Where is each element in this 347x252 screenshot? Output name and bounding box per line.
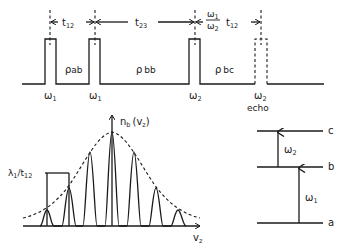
omega1-transition-label: ω1 xyxy=(305,192,318,205)
rho-bb-label: ρbb xyxy=(136,64,156,75)
t23-label: t23 xyxy=(135,17,147,30)
svg-text:ω2: ω2 xyxy=(207,21,219,33)
period-label: λ1/t12 xyxy=(8,168,32,180)
pulse-3-label: ω2 xyxy=(189,90,202,103)
level-b-label: b xyxy=(328,161,334,172)
rho-ab-label: ρab xyxy=(65,64,83,75)
level-c-label: c xyxy=(328,125,334,136)
pulse-2-label: ω1 xyxy=(89,90,102,103)
t12-label: t12 xyxy=(62,17,74,30)
echo-label: echo xyxy=(247,103,269,113)
echo-pulse-outline xyxy=(255,39,267,84)
fringe-pattern xyxy=(40,132,186,226)
y-axis-label: nb(vz) xyxy=(120,116,150,129)
velocity-distribution-plot: λ1/t12 nb(vz) vz xyxy=(8,115,203,245)
pulse-train-line xyxy=(22,39,324,84)
pulse-sequence: t12 t23 ω1 ω2 t12 ρab ρbb ρbc ω1 ω1 ω2 ω… xyxy=(22,9,324,113)
rho-bc-label: ρbc xyxy=(215,64,234,75)
svg-text:ω1: ω1 xyxy=(207,9,219,21)
echo-pulse-label: ω2 xyxy=(254,90,267,103)
echo-delay-label: ω1 ω2 t12 xyxy=(206,9,238,33)
svg-text:t12: t12 xyxy=(226,17,238,30)
x-axis-label: vz xyxy=(193,232,203,245)
pulse-1-label: ω1 xyxy=(44,90,57,103)
level-a-label: a xyxy=(328,217,334,228)
energy-level-diagram: c b a ω2 ω1 xyxy=(257,125,334,228)
omega2-transition-label: ω2 xyxy=(284,144,297,157)
echo-diagram: t12 t23 ω1 ω2 t12 ρab ρbb ρbc ω1 ω1 ω2 ω… xyxy=(0,0,347,252)
